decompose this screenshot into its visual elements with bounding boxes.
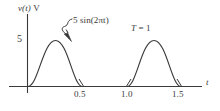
annotation-expression: 5 sin(2πt) [73, 16, 109, 25]
waveform-figure: v(t) V 5 5 sin(2πt) T = 1 0.5 1.0 1.5 t [0, 0, 220, 111]
waveform-hump-2 [127, 41, 181, 87]
plot-canvas [0, 0, 220, 111]
x-tick-label-0: 0.5 [74, 90, 86, 99]
annotation-period: T = 1 [131, 24, 151, 33]
y-axis-label-unit: V [33, 3, 40, 13]
x-axis-label: t [206, 78, 209, 87]
annotation-arrowhead [64, 30, 71, 42]
annotation-period-value: = 1 [138, 23, 150, 33]
y-axis-label: v(t) V [18, 4, 40, 13]
x-tick-label-1: 1.0 [121, 90, 133, 99]
y-tick-label-5: 5 [17, 34, 22, 44]
x-tick-label-2: 1.5 [172, 90, 184, 99]
waveform-hump-1 [28, 41, 83, 87]
y-axis-label-symbol: v(t) [18, 3, 31, 13]
